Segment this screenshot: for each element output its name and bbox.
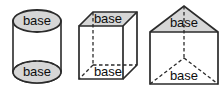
cylinder-drawing: base base — [0, 0, 74, 93]
triprism-bottom-base-label: base — [170, 68, 198, 83]
figure-canvas: base base base base — [0, 0, 222, 93]
figure-cylinder: base base — [0, 0, 74, 93]
triprism-top-base-label: base — [170, 15, 198, 30]
figure-triangular-prism: base base — [146, 0, 222, 93]
figure-rectangular-prism: base base — [74, 0, 146, 93]
cylinder-bottom-base-label: base — [23, 64, 51, 79]
cube-top-base-label: base — [94, 11, 122, 26]
rectangular-prism-drawing: base base — [74, 0, 146, 93]
triangular-prism-drawing: base base — [146, 0, 222, 93]
cylinder-top-base-label: base — [23, 13, 51, 28]
cube-bottom-base-label: base — [94, 64, 122, 79]
